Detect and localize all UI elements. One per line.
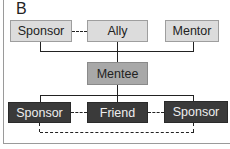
node-ally: Ally — [87, 20, 148, 42]
connector-mentee-down — [117, 85, 118, 102]
connector-ally-down — [117, 42, 118, 62]
node-sponsor-bottom-left: Sponsor — [8, 102, 71, 123]
frame-bottom-border — [3, 143, 230, 144]
connector-bottom-horizontal — [40, 95, 194, 96]
node-mentor: Mentor — [165, 20, 219, 42]
connector-top-horizontal — [40, 51, 194, 52]
dashed-friend-sponsor — [148, 112, 164, 113]
node-sponsor-top: Sponsor — [10, 20, 72, 42]
dashed-sponsor-sponsor — [40, 132, 194, 133]
node-sponsor-bottom-right: Sponsor — [164, 101, 228, 123]
frame-left-border — [3, 0, 4, 144]
dashed-sponsor-ally — [72, 31, 87, 32]
dashed-left-sponsor-down — [39, 123, 40, 132]
panel-label: B — [16, 0, 27, 18]
node-mentee: Mentee — [87, 62, 148, 85]
node-friend: Friend — [87, 102, 148, 123]
dashed-right-sponsor-down — [193, 123, 194, 132]
dashed-sponsor-friend — [71, 112, 87, 113]
connector-left-sponsor-up — [40, 95, 41, 102]
